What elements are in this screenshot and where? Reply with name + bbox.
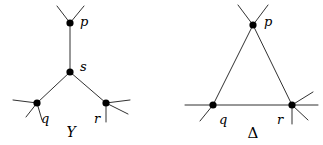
vertex-q [209, 101, 216, 108]
vertex-s [66, 68, 73, 75]
free-edge-r-upright [106, 100, 130, 103]
vertex-label-r: r [94, 111, 101, 126]
free-edge-p-upleft [238, 5, 253, 25]
edge-p-q [213, 25, 253, 105]
free-edge-r-upright [292, 92, 313, 105]
vertex-label-q: q [219, 112, 227, 127]
vertex-r [102, 99, 109, 106]
free-edge-q-left [13, 100, 37, 103]
vertex-p [249, 21, 256, 28]
edge-s-r [70, 72, 106, 103]
vertex-label-s: s [80, 59, 87, 74]
delta-diagram: p q r Δ [185, 5, 318, 142]
diagram-caption-delta: Δ [248, 124, 259, 142]
figure-container: p s q r Y [0, 0, 323, 145]
vertex-p [66, 19, 73, 26]
vertex-label-r: r [277, 112, 284, 127]
vertex-q [33, 99, 40, 106]
edge-s-q [37, 72, 70, 103]
y-diagram: p s q r Y [13, 6, 130, 140]
figure-canvas: p s q r Y [0, 0, 323, 145]
diagram-caption-y: Y [66, 124, 77, 140]
edge-p-r [253, 25, 292, 105]
vertex-r [288, 101, 295, 108]
free-edge-r-right [106, 103, 128, 114]
vertex-label-p: p [264, 14, 273, 29]
vertex-label-q: q [41, 111, 49, 126]
vertex-label-p: p [80, 14, 89, 29]
